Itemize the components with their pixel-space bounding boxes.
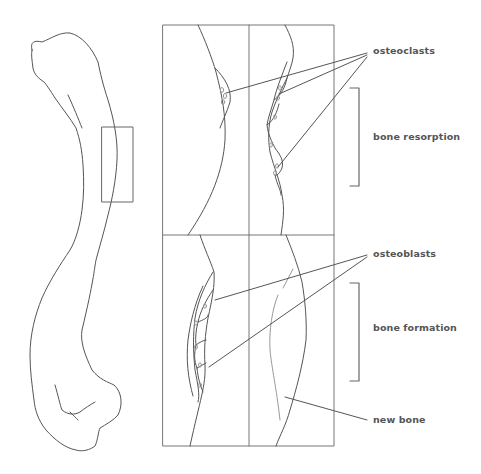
leader-lines	[209, 53, 367, 420]
panel-formation-complete	[270, 235, 306, 446]
label-osteoblasts: osteoblasts	[373, 248, 436, 259]
label-osteoclasts: osteoclasts	[373, 45, 435, 56]
long-bone-illustration	[30, 33, 121, 451]
panel-grid	[163, 25, 334, 446]
region-highlight-box	[102, 127, 133, 202]
bone-remodeling-diagram	[0, 0, 481, 474]
resorption-bracket	[350, 88, 359, 186]
panel-formation-active	[187, 235, 214, 446]
brackets	[350, 88, 359, 381]
formation-bracket	[350, 283, 359, 381]
label-bone-formation: bone formation	[373, 322, 457, 333]
panel-resorption-early	[188, 25, 230, 235]
label-new-bone: new bone	[373, 414, 426, 425]
panel-resorption-active	[267, 25, 293, 235]
label-bone-resorption: bone resorption	[373, 131, 460, 142]
